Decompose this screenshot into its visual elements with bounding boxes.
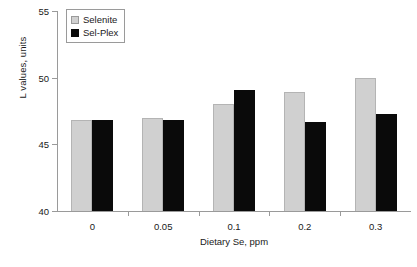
bar-sel-plex-0.1 [234,90,255,211]
bar-selenite-0.3 [355,78,376,211]
legend-item-sel-plex: Sel-Plex [71,26,118,39]
chart-legend: SeleniteSel-Plex [66,9,125,43]
bar-sel-plex-0.3 [376,114,397,211]
x-axis-tick-label: 0.05 [154,221,173,232]
y-axis-tick-label: 45 [38,139,49,150]
y-axis-tick [52,211,57,212]
x-axis-title: Dietary Se, ppm [57,236,411,247]
legend-label: Selenite [83,14,117,25]
x-axis-tick-label: 0.3 [369,221,382,232]
y-axis-tick [52,144,57,145]
bar-chart: L values, units 4045505500.050.10.20.3Se… [0,0,417,267]
legend-item-selenite: Selenite [71,13,118,26]
y-axis-tick-label: 50 [38,72,49,83]
legend-label: Sel-Plex [83,27,118,38]
x-axis-tick-label: 0.2 [298,221,311,232]
y-axis-line [57,11,58,211]
bar-selenite-0.2 [284,92,305,211]
y-axis-tick [52,78,57,79]
y-axis-tick-label: 55 [38,6,49,17]
x-axis-tick [199,211,200,216]
x-axis-tick [128,211,129,216]
bar-sel-plex-0.05 [163,120,184,211]
bar-selenite-0 [71,120,92,211]
y-axis-title: L values, units [17,8,28,128]
bar-selenite-0.1 [213,104,234,211]
y-axis-tick [52,11,57,12]
plot-area: 4045505500.050.10.20.3SeleniteSel-Plex [57,11,411,211]
legend-swatch-icon [71,16,79,24]
x-axis-tick [340,211,341,216]
x-axis-tick-label: 0.1 [227,221,240,232]
bar-sel-plex-0.2 [305,122,326,211]
bar-selenite-0.05 [142,118,163,211]
x-axis-line [57,211,411,212]
x-axis-tick [269,211,270,216]
x-axis-tick-label: 0 [90,221,95,232]
legend-swatch-icon [71,29,79,37]
y-axis-tick-label: 40 [38,206,49,217]
bar-sel-plex-0 [92,120,113,211]
